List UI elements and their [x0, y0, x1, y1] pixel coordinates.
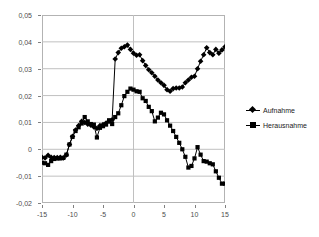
x-tick-mark — [195, 205, 196, 208]
x-tick-label: -10 — [67, 211, 77, 218]
x-tick-mark — [164, 205, 165, 208]
diamond-marker-icon — [246, 105, 260, 116]
y-tick-mark — [38, 96, 41, 97]
x-tick-mark — [73, 205, 74, 208]
y-tick-label: 0 — [28, 146, 32, 153]
y-tick-label: 0,04 — [18, 38, 32, 45]
y-tick-label: 0,03 — [18, 65, 32, 72]
y-axis: -0,02-0,0100,010,020,030,040,05 — [0, 15, 38, 203]
x-tick-label: 5 — [162, 211, 166, 218]
x-tick-label: -5 — [100, 211, 106, 218]
y-tick-mark — [38, 203, 41, 204]
y-tick-mark — [38, 42, 41, 43]
y-tick-label: -0,02 — [16, 200, 32, 207]
square-marker-icon — [246, 120, 260, 131]
x-tick-mark — [225, 205, 226, 208]
y-tick-mark — [38, 15, 41, 16]
legend-label: Herausnahme — [263, 122, 307, 129]
x-tick-mark — [42, 205, 43, 208]
x-tick-label: 0 — [132, 211, 136, 218]
y-tick-mark — [38, 149, 41, 150]
legend-item-aufnahme[interactable]: Aufnahme — [246, 104, 318, 116]
x-tick-label: 15 — [221, 211, 229, 218]
chart-screenshot: -0,02-0,0100,010,020,030,040,05 -15-10-5… — [0, 0, 319, 237]
y-tick-mark — [38, 122, 41, 123]
x-axis: -15-10-5051015 — [42, 205, 225, 225]
x-tick-mark — [134, 205, 135, 208]
legend-item-herausnahme[interactable]: Herausnahme — [246, 119, 318, 131]
x-tick-mark — [103, 205, 104, 208]
y-tick-label: 0,01 — [18, 119, 32, 126]
x-tick-label: 10 — [191, 211, 199, 218]
y-tick-mark — [38, 176, 41, 177]
chart-legend: Aufnahme Herausnahme — [246, 104, 318, 134]
y-tick-label: 0,05 — [18, 12, 32, 19]
y-tick-label: 0,02 — [18, 92, 32, 99]
legend-label: Aufnahme — [263, 107, 295, 114]
y-tick-mark — [38, 69, 41, 70]
x-tick-label: -15 — [37, 211, 47, 218]
y-tick-label: -0,01 — [16, 173, 32, 180]
plot-area — [42, 15, 225, 203]
series-lines — [42, 15, 225, 203]
